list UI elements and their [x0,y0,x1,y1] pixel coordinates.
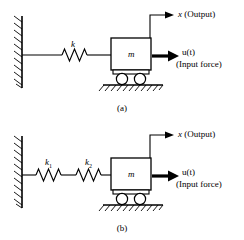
wheels-b [116,193,145,204]
input-force-arrow-b [152,171,179,182]
caption-a: (a) [0,104,244,113]
ground-support-b [99,205,163,211]
output-label: x (Output) [178,10,215,19]
wall-support-b [14,136,22,208]
output-note: (Output) [184,129,215,139]
spring-label-k1-sub: 1 [49,163,52,169]
spring-k1-b [22,169,76,181]
output-variable: x [178,9,182,19]
output-note: (Output) [184,9,215,19]
output-arrow-b [150,132,174,158]
output-label: x (Output) [178,130,215,139]
wheels-a [116,73,145,84]
cart-frame-a [113,70,149,74]
spring-k2-b [76,169,111,181]
ground-support-a [99,85,163,91]
spring-label-k: k [71,40,75,49]
input-note: (Input force) [176,60,222,69]
input-note: (Input force) [176,180,222,189]
output-arrow-a [150,12,174,38]
mass-label-m: m [128,50,135,59]
spring-k-a [22,49,111,61]
mass-label-m: m [128,170,135,179]
input-variable: u(t) [182,168,195,177]
caption-b: (b) [0,224,244,233]
wall-support-a [14,16,22,88]
figure-container: k m x (Output) u(t) (Input force) (a) [0,0,244,240]
spring-label-k2: k2 [85,158,92,169]
input-force-arrow-a [152,51,179,62]
spring-label-k1: k1 [45,158,52,169]
cart-frame-b [113,190,149,194]
panel-a: k m x (Output) u(t) (Input force) (a) [0,0,244,120]
panel-b: k1 k2 m x (Output) u(t) (Input force) (b… [0,120,244,240]
output-variable: x [178,129,182,139]
spring-label-k2-sub: 2 [89,163,92,169]
input-variable: u(t) [182,48,195,57]
